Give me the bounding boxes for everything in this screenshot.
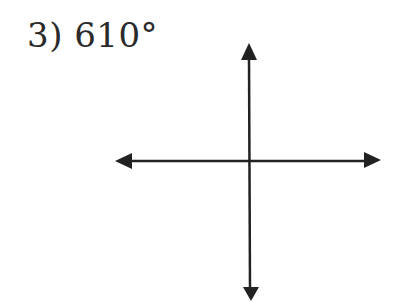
arrow-right-icon [364, 152, 381, 168]
y-axis [241, 43, 259, 301]
arrow-down-icon [243, 287, 259, 301]
coordinate-axes [0, 0, 404, 302]
x-axis [115, 152, 381, 169]
arrow-left-icon [115, 153, 132, 169]
arrow-up-icon [241, 43, 257, 60]
